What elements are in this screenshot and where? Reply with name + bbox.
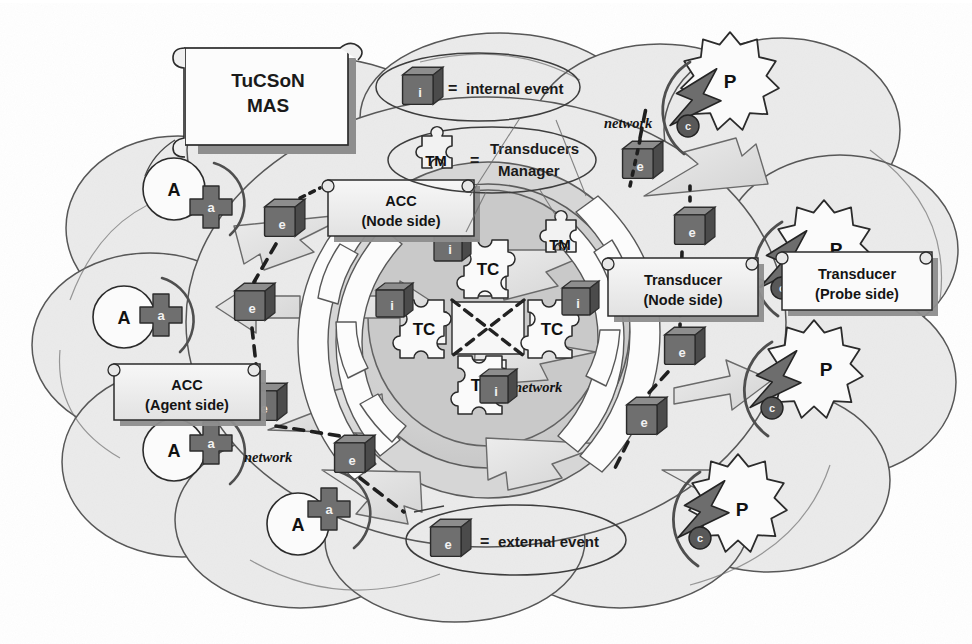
internal-event-south: i xyxy=(480,369,517,403)
external-event-glyph: e xyxy=(688,225,695,240)
external-event-agent-upper: e xyxy=(265,199,305,236)
agent-label: A xyxy=(168,441,181,461)
internal-event-west: i xyxy=(376,283,413,317)
acc-glyph: a xyxy=(157,308,165,323)
label-line-1: ACC xyxy=(171,377,203,393)
external-event-probe-middle: e xyxy=(665,327,705,364)
legend-glyph: TM xyxy=(425,152,447,169)
label-line-2: (Agent side) xyxy=(145,397,229,413)
tuple-centre-label: TC xyxy=(413,320,436,339)
agent-label: A xyxy=(118,308,131,328)
probe-label: P xyxy=(736,499,749,520)
external-event-probe-top: e xyxy=(623,141,663,178)
internal-event-cube-icon xyxy=(403,67,443,104)
legend-text: external event xyxy=(498,533,599,550)
label-line-2: (Probe side) xyxy=(815,286,899,302)
tuple-centre-label: TC xyxy=(541,320,564,339)
legend-text-line-2: Manager xyxy=(498,162,560,179)
scroll-title-line-2: MAS xyxy=(247,95,289,116)
legend-equals: = xyxy=(448,80,457,97)
acc-glyph: a xyxy=(207,200,215,215)
external-event-probe-lower: e xyxy=(627,397,667,434)
acc-glyph: a xyxy=(207,436,215,451)
label-acc-node-side: ACC (Node side) xyxy=(322,180,480,242)
probe-label: P xyxy=(724,71,737,92)
label-line-1: ACC xyxy=(385,193,417,209)
external-event-glyph: e xyxy=(278,217,285,232)
legend-glyph: i xyxy=(418,85,422,100)
label-acc-agent-side: ACC (Agent side) xyxy=(108,364,266,426)
legend-text: internal event xyxy=(466,80,564,97)
label-line-1: Transducer xyxy=(644,272,723,288)
figure-canvas: TC TC TC TC network i i i xyxy=(0,0,972,644)
legend-equals: = xyxy=(480,533,489,550)
external-event-agent-bottom: e xyxy=(335,435,375,472)
network-label-probe: network xyxy=(604,115,653,131)
external-event-glyph: e xyxy=(248,301,255,316)
legend-text-line-1: Transducers xyxy=(490,140,579,157)
acc-glyph: a xyxy=(325,502,333,517)
external-event-probe-upper: e xyxy=(675,207,715,244)
agent-label: A xyxy=(292,515,305,535)
label-transducer-probe-side: Transducer (Probe side) xyxy=(776,252,938,316)
label-line-2: (Node side) xyxy=(644,292,723,308)
label-line-2: (Node side) xyxy=(362,213,441,229)
external-event-glyph: e xyxy=(640,415,647,430)
label-transducer-node-side: Transducer (Node side) xyxy=(602,258,764,322)
agent-label: A xyxy=(168,180,181,200)
internal-event-east: i xyxy=(562,281,599,315)
internal-event-glyph: i xyxy=(576,296,580,311)
internal-event-glyph: i xyxy=(390,298,394,313)
tucson-mas-diagram: TC TC TC TC network i i i xyxy=(0,0,972,644)
external-event-agent-middle: e xyxy=(235,283,275,320)
legend-equals: = xyxy=(470,152,479,169)
probe-label: P xyxy=(820,359,833,380)
tuple-centre-label: TC xyxy=(477,260,500,279)
probe-coupler-glyph: c xyxy=(769,402,775,414)
probe-coupler-glyph: c xyxy=(697,532,703,544)
probe-coupler-glyph: c xyxy=(685,120,691,132)
transducers-manager-label: TM xyxy=(549,236,571,253)
legend-glyph: e xyxy=(444,537,451,552)
internal-event-glyph: i xyxy=(448,242,452,257)
internal-event-glyph: i xyxy=(494,384,498,399)
scroll-title-line-1: TuCSoN xyxy=(231,70,305,91)
external-event-glyph: e xyxy=(678,345,685,360)
external-event-glyph: e xyxy=(636,159,643,174)
network-label-agent: network xyxy=(244,449,293,465)
label-line-1: Transducer xyxy=(818,266,897,282)
network-label-core: network xyxy=(514,379,563,395)
external-event-glyph: e xyxy=(348,453,355,468)
